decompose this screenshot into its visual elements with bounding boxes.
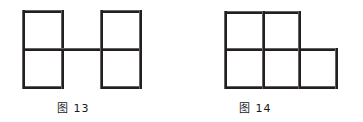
figure-13-caption: 图 13 bbox=[57, 99, 90, 115]
figure-14-caption: 图 14 bbox=[239, 99, 272, 115]
fig14-column-1-edge bbox=[224, 11, 227, 89]
fig13-right-top-edge bbox=[100, 10, 142, 13]
fig13-right-west-edge bbox=[100, 10, 103, 89]
fig13-right-bottom-edge bbox=[100, 86, 142, 89]
fig14-column-3-edge bbox=[298, 11, 301, 89]
fig13-right-middle-edge bbox=[100, 48, 142, 51]
fig14-bottom-edge bbox=[224, 86, 338, 89]
fig13-connector-bar bbox=[61, 48, 103, 51]
fig14-column-4-edge bbox=[335, 48, 338, 89]
fig13-left-bottom-edge bbox=[22, 86, 64, 89]
diagram-canvas: 图 13 图 14 bbox=[0, 0, 363, 122]
fig13-right-east-edge bbox=[139, 10, 142, 89]
fig13-left-middle-edge bbox=[22, 48, 64, 51]
fig13-left-west-edge bbox=[22, 10, 25, 89]
fig14-column-2-edge bbox=[262, 11, 265, 89]
fig14-middle-edge bbox=[224, 48, 338, 51]
fig13-left-top-edge bbox=[22, 10, 64, 13]
